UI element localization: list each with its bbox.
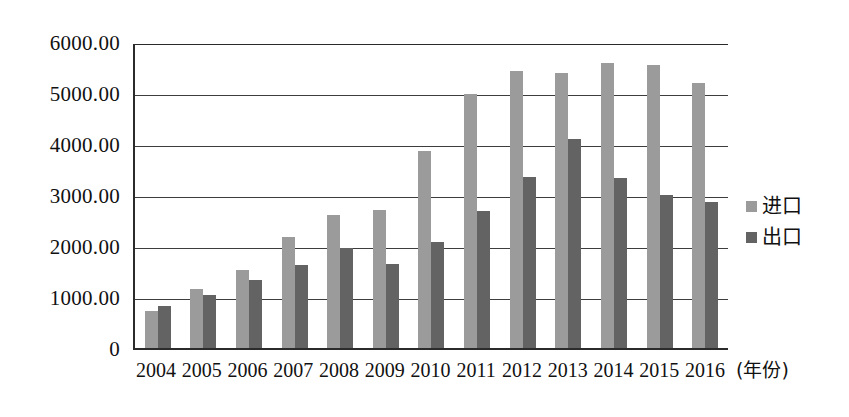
bar-exports[interactable] [523,177,536,348]
x-axis-tick-label: 2015 [636,356,682,386]
x-axis-tick-label: 2006 [225,356,271,386]
bar-exports[interactable] [340,248,353,348]
bar-imports[interactable] [373,210,386,348]
x-axis-tick-label: 2014 [591,356,637,386]
y-axis-labels: 6000.005000.004000.003000.002000.001000.… [0,0,128,417]
bar-imports[interactable] [510,71,523,348]
x-axis-tick-label: 2016 [682,356,728,386]
bar-group [591,44,637,348]
bar-exports[interactable] [705,202,718,348]
y-axis-tick-label: 2000.00 [50,237,120,258]
bar-chart: 6000.005000.004000.003000.002000.001000.… [0,0,849,417]
x-axis-title: (年份) [736,356,789,384]
plot-area [133,44,728,350]
bar-exports[interactable] [295,265,308,348]
bar-exports[interactable] [614,178,627,348]
bar-imports[interactable] [418,151,431,348]
bar-imports[interactable] [282,237,295,348]
legend-label-exports: 出口 [762,227,802,247]
bar-exports[interactable] [568,139,581,348]
bar-groups [135,44,728,348]
y-axis-tick-label: 0 [109,339,120,360]
bar-group [454,44,500,348]
y-axis-tick-label: 5000.00 [50,84,120,105]
x-axis-tick-label: 2012 [499,356,545,386]
x-axis-tick-label: 2005 [179,356,225,386]
bar-group [272,44,318,348]
bar-group [317,44,363,348]
x-axis-tick-label: 2009 [362,356,408,386]
bar-imports[interactable] [647,65,660,348]
bar-group [409,44,455,348]
bar-exports[interactable] [249,280,262,348]
bar-imports[interactable] [692,83,705,348]
bar-exports[interactable] [660,195,673,348]
y-axis-tick-label: 4000.00 [50,135,120,156]
x-axis-tick-label: 2010 [408,356,454,386]
bar-group [135,44,181,348]
x-axis-tick-label: 2008 [316,356,362,386]
bar-exports[interactable] [203,295,216,348]
x-axis-tick-label: 2004 [133,356,179,386]
legend-swatch-exports-icon [746,232,757,243]
y-axis-tick-label: 6000.00 [50,33,120,54]
bar-imports[interactable] [190,289,203,348]
bar-imports[interactable] [555,73,568,348]
bar-exports[interactable] [158,306,171,348]
legend-swatch-imports-icon [746,201,757,212]
bar-imports[interactable] [145,311,158,348]
bar-group [500,44,546,348]
legend-label-imports: 进口 [762,196,802,216]
bar-imports[interactable] [236,270,249,348]
bar-imports[interactable] [327,215,340,348]
x-axis-tick-label: 2013 [545,356,591,386]
chart-legend: 进口 出口 [746,196,802,247]
bar-group [682,44,728,348]
bar-imports[interactable] [601,63,614,348]
legend-item-exports[interactable]: 出口 [746,227,802,247]
bar-group [637,44,683,348]
legend-item-imports[interactable]: 进口 [746,196,802,216]
x-axis-tick-label: 2011 [453,356,499,386]
bar-exports[interactable] [477,211,490,348]
bar-group [226,44,272,348]
x-axis-tick-label: 2007 [270,356,316,386]
bar-exports[interactable] [431,242,444,348]
y-axis-tick-label: 3000.00 [50,186,120,207]
y-axis-tick-label: 1000.00 [50,288,120,309]
bar-exports[interactable] [386,264,399,348]
bar-group [363,44,409,348]
bar-group [181,44,227,348]
bar-group [545,44,591,348]
bar-imports[interactable] [464,94,477,348]
x-axis-labels: 2004200520062007200820092010201120122013… [133,356,728,386]
